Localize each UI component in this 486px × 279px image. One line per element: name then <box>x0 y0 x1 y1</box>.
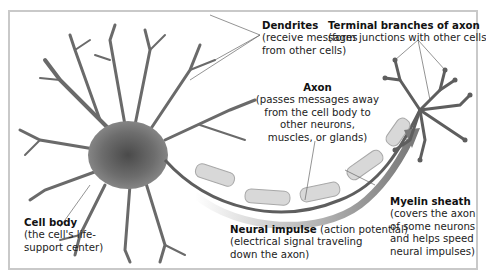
label-terminal-branches: Terminal branches of axon (form junction… <box>328 20 478 45</box>
label-cell-body: Cell body (the cell's life- support cent… <box>24 217 103 254</box>
label-axon: Axon (passes messages away from the cell… <box>255 82 380 144</box>
label-myelin-sheath: Myelin sheath (covers the axon of some n… <box>390 196 475 258</box>
cell-body-shape <box>88 121 168 189</box>
label-neural-impulse: Neural impulse (action potential) (elect… <box>230 224 408 261</box>
